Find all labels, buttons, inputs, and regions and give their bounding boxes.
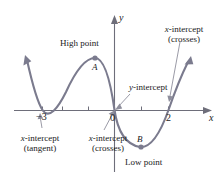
graph-figure: y x 0 −3 2 High point A Low point B x-in… bbox=[0, 0, 222, 184]
y-intercept-annotation: y-intercept bbox=[129, 82, 167, 92]
x-intercept-tangent-line2: (tangent) bbox=[4, 143, 76, 153]
point-a-dot bbox=[92, 55, 97, 60]
tick-label-2: 2 bbox=[166, 113, 171, 123]
low-point-label: Low point bbox=[125, 157, 162, 167]
x-intercept-origin-line1: x-intercept bbox=[72, 133, 144, 143]
origin-label: 0 bbox=[110, 113, 115, 123]
x-intercept-right-line2: (crosses) bbox=[148, 34, 220, 44]
high-point-label: High point bbox=[60, 38, 99, 48]
x-intercept-tangent-line1: x-intercept bbox=[4, 133, 76, 143]
point-a-label: A bbox=[92, 62, 98, 72]
x-intercept-right-line1: x-intercept bbox=[148, 24, 220, 34]
x-axis-label: x bbox=[209, 113, 213, 123]
y-axis-arrowhead bbox=[111, 15, 118, 24]
x-intercept-origin-annotation: x-intercept (crosses) bbox=[72, 133, 144, 153]
tick-label-neg3: −3 bbox=[36, 112, 47, 122]
curve-right-arrowhead bbox=[185, 56, 194, 65]
x-intercept-origin-line2: (crosses) bbox=[72, 143, 144, 153]
leader-xint-right bbox=[170, 42, 180, 96]
leader-yint-arrowhead bbox=[115, 104, 122, 110]
y-axis-label: y bbox=[119, 13, 123, 23]
x-intercept-right-annotation: x-intercept (crosses) bbox=[148, 24, 220, 44]
x-intercept-tangent-annotation: x-intercept (tangent) bbox=[4, 133, 76, 153]
